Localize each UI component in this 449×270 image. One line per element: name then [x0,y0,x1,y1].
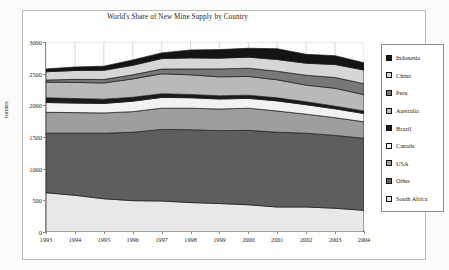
y-axis-tick-label: 2500 [29,70,42,77]
x-axis-tick-label: 1993 [40,236,52,243]
x-axis-tick-mark [219,231,220,234]
legend-item-label: USA [396,160,408,167]
legend-item-australia[interactable]: Australia [386,102,440,120]
legend-item-usa[interactable]: USA [386,155,440,173]
x-axis-tick-label: 1995 [98,236,110,243]
x-axis-tick-mark [46,231,47,234]
y-axis-tick-label: 0 [39,229,42,236]
y-axis-tick-mark [43,169,46,170]
x-axis-tick-mark [306,231,307,234]
x-axis-tick-label: 2002 [300,236,312,243]
y-axis-tick-mark [43,42,46,43]
x-axis-tick-label: 1999 [213,236,225,243]
legend-swatch-icon [386,143,392,149]
legend-item-label: South Africa [396,195,427,202]
y-axis-tick-label: 1000 [29,165,42,172]
y-axis-label: tonnes [2,101,9,118]
legend-item-label: Brazil [396,125,411,132]
legend-item-label: China [396,72,411,79]
x-axis-tick-mark [75,231,76,234]
legend-item-canada[interactable]: Canada [386,137,440,155]
x-axis-tick-label: 2004 [358,236,370,243]
chart-screenshot: World's Share of New Mine Supply by Coun… [0,0,449,270]
legend-swatch-icon [386,55,392,61]
y-axis-tick-label: 1500 [29,134,42,141]
legend-item-indonesia[interactable]: Indonesia [386,49,440,67]
plot-area: 0500100015002000250030001993199419951996… [45,42,363,232]
legend-item-other[interactable]: Other [386,172,440,190]
legend-swatch-icon [386,160,392,166]
x-axis-tick-mark [104,231,105,234]
legend-swatch-icon [386,178,392,184]
legend-item-label: Australia [396,107,419,114]
plot-canvas: 0500100015002000250030001993199419951996… [45,42,363,232]
x-axis-tick-label: 1998 [184,236,196,243]
legend-item-brazil[interactable]: Brazil [386,119,440,137]
x-axis-tick-label: 2001 [271,236,283,243]
y-axis-tick-mark [43,137,46,138]
legend-swatch-icon [386,125,392,131]
x-axis-tick-label: 2000 [242,236,254,243]
x-axis-tick-label: 1997 [155,236,167,243]
y-axis-tick-mark [43,105,46,106]
x-axis-tick-label: 1994 [69,236,81,243]
x-axis-tick-mark [133,231,134,234]
legend-swatch-icon [386,90,392,96]
chart-title: World's Share of New Mine Supply by Coun… [0,13,355,21]
area-chart-svg [46,42,364,232]
legend-swatch-icon [386,196,392,202]
legend-item-label: Other [396,177,410,184]
x-axis-tick-label: 1996 [127,236,139,243]
legend-item-label: Peru [396,89,407,96]
x-axis-tick-mark [248,231,249,234]
y-axis-tick-label: 500 [32,197,42,204]
chart-legend: IndonesiaChinaPeruAustraliaBrazilCanadaU… [381,44,444,212]
x-axis-tick-mark [335,231,336,234]
legend-item-south-africa[interactable]: South Africa [386,190,440,208]
x-axis-tick-mark [191,231,192,234]
x-axis-tick-mark [364,231,365,234]
y-axis-tick-label: 3000 [29,39,42,46]
x-axis-tick-mark [277,231,278,234]
y-axis-tick-mark [43,200,46,201]
y-axis-tick-label: 2000 [29,102,42,109]
legend-item-peru[interactable]: Peru [386,84,440,102]
legend-item-china[interactable]: China [386,67,440,85]
x-axis-tick-mark [162,231,163,234]
legend-item-label: Indonesia [396,54,420,61]
x-axis-tick-label: 2003 [329,236,341,243]
legend-swatch-icon [386,72,392,78]
legend-swatch-icon [386,108,392,114]
y-axis-tick-mark [43,74,46,75]
legend-item-label: Canada [396,142,415,149]
